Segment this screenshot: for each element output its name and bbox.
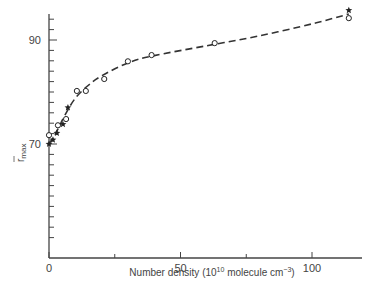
x-tick-label: 0 bbox=[46, 262, 52, 274]
circle-marker bbox=[102, 76, 107, 81]
star-marker bbox=[345, 7, 352, 14]
circle-marker bbox=[149, 52, 154, 57]
dashed-fit-line bbox=[49, 14, 349, 144]
circle-marker bbox=[346, 16, 351, 21]
circle-marker bbox=[83, 88, 88, 93]
circle-marker bbox=[46, 133, 51, 138]
y-tick-label: 90 bbox=[29, 34, 41, 46]
svg-text:rmax: rmax bbox=[15, 144, 28, 162]
fit-curve bbox=[49, 14, 349, 144]
circle-marker bbox=[212, 41, 217, 46]
circle-marker bbox=[63, 116, 68, 121]
circle-marker bbox=[55, 123, 60, 128]
chart-plot: 0501007090 Number density (1010 molecule… bbox=[0, 0, 376, 287]
axes bbox=[49, 14, 362, 258]
circle-marker bbox=[125, 59, 130, 64]
star-marker bbox=[53, 129, 60, 136]
axis-ticks: 0501007090 bbox=[29, 19, 321, 274]
x-tick-label: 100 bbox=[303, 262, 321, 274]
x-axis-title: Number density (1010 molecule cm−3) bbox=[129, 266, 294, 278]
y-axis-title: rmax bbox=[14, 144, 28, 162]
data-markers bbox=[46, 7, 353, 147]
circle-marker bbox=[74, 88, 79, 93]
y-tick-label: 70 bbox=[29, 138, 41, 150]
